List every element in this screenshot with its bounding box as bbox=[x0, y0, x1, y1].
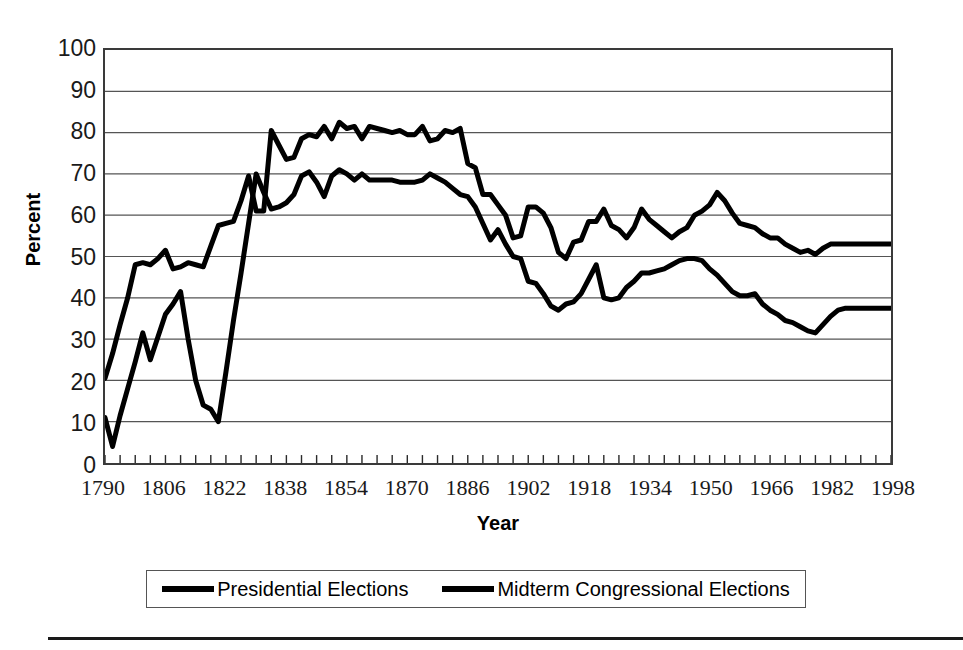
x-tick-label: 1870 bbox=[372, 475, 442, 501]
x-tick-label: 1806 bbox=[129, 475, 199, 501]
chart-legend: Presidential ElectionsMidterm Congressio… bbox=[146, 570, 806, 608]
figure-container: 1009080706050403020100 Percent 179018061… bbox=[0, 0, 963, 650]
x-tick-label: 1982 bbox=[797, 475, 867, 501]
x-tick-label: 1966 bbox=[736, 475, 806, 501]
x-tick-label: 1838 bbox=[250, 475, 320, 501]
y-tick-label: 30 bbox=[40, 329, 96, 352]
y-tick-label: 40 bbox=[40, 287, 96, 310]
y-tick-label: 20 bbox=[40, 371, 96, 394]
x-axis-title: Year bbox=[103, 512, 893, 535]
x-tick-label: 1854 bbox=[311, 475, 381, 501]
series-line-presidential bbox=[105, 122, 891, 378]
y-tick-label: 60 bbox=[40, 204, 96, 227]
y-tick-label: 70 bbox=[40, 162, 96, 185]
y-axis-tick-labels: 1009080706050403020100 bbox=[40, 30, 96, 483]
y-tick-label: 0 bbox=[40, 454, 96, 477]
y-tick-label: 10 bbox=[40, 412, 96, 435]
legend-entry[interactable]: Presidential Elections bbox=[162, 579, 408, 599]
series-line-midterm bbox=[105, 170, 891, 447]
plot-area bbox=[103, 48, 893, 465]
y-tick-label: 50 bbox=[40, 246, 96, 269]
x-minor-ticks-group bbox=[105, 455, 891, 463]
legend-line-swatch-icon bbox=[162, 586, 214, 592]
x-tick-label: 1998 bbox=[858, 475, 928, 501]
x-axis-tick-labels: 1790180618221838185418701886190219181934… bbox=[103, 475, 893, 505]
x-tick-label: 1790 bbox=[68, 475, 138, 501]
y-tick-label: 100 bbox=[40, 37, 96, 60]
x-tick-label: 1950 bbox=[676, 475, 746, 501]
x-tick-label: 1822 bbox=[190, 475, 260, 501]
x-tick-label: 1934 bbox=[615, 475, 685, 501]
y-tick-label: 90 bbox=[40, 79, 96, 102]
gridlines-group bbox=[105, 91, 891, 421]
footer-divider bbox=[48, 637, 963, 640]
x-tick-label: 1902 bbox=[493, 475, 563, 501]
data-series-group bbox=[105, 122, 891, 446]
chart-canvas bbox=[105, 50, 891, 463]
legend-line-swatch-icon bbox=[442, 586, 494, 592]
legend-label: Midterm Congressional Elections bbox=[497, 579, 789, 599]
legend-entry[interactable]: Midterm Congressional Elections bbox=[442, 579, 789, 599]
legend-label: Presidential Elections bbox=[217, 579, 408, 599]
y-tick-label: 80 bbox=[40, 120, 96, 143]
x-tick-label: 1918 bbox=[554, 475, 624, 501]
x-tick-label: 1886 bbox=[433, 475, 503, 501]
y-axis-title: Percent bbox=[22, 175, 45, 285]
